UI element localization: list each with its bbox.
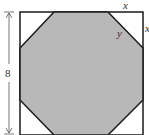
side-length-label: 8 <box>5 67 11 79</box>
octagon-side-label: y <box>116 27 122 39</box>
corner-leg-label-top: x <box>122 0 128 11</box>
octagon-in-square-diagram: 8 x x y <box>0 0 149 135</box>
octagon <box>20 12 143 135</box>
corner-leg-label-right: x <box>144 22 149 34</box>
